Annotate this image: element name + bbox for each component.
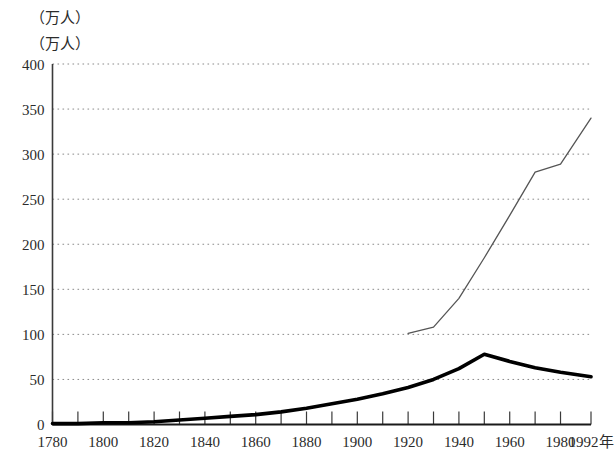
x-tick-label-1960: 1960 xyxy=(495,434,525,450)
x-tick-label-1820: 1820 xyxy=(139,434,169,450)
y-tick-label-300: 300 xyxy=(22,147,45,163)
chart-container: （万人） （万人） 050100150200250300350400 17801… xyxy=(0,0,616,469)
y-tick-label-200: 200 xyxy=(22,237,45,253)
x-tick-label-1900: 1900 xyxy=(342,434,372,450)
y-tick-label-400: 400 xyxy=(22,57,45,73)
y-tick-label-250: 250 xyxy=(22,192,45,208)
x-tick-label-1992年: 1992年 xyxy=(569,434,614,450)
y-tick-label-50: 50 xyxy=(30,372,45,388)
x-tick-label-1780: 1780 xyxy=(38,434,68,450)
x-tick-label-1880: 1880 xyxy=(292,434,322,450)
x-tick-label-1920: 1920 xyxy=(393,434,423,450)
data-series xyxy=(53,118,592,424)
line-chart-plot: 050100150200250300350400 178018001820184… xyxy=(0,0,616,469)
gridlines xyxy=(53,64,592,379)
y-tick-label-350: 350 xyxy=(22,102,45,118)
x-tick-label-1800: 1800 xyxy=(88,434,118,450)
x-tick-label-1840: 1840 xyxy=(190,434,220,450)
x-axis-tick-labels: 1780180018201840186018801900192019401960… xyxy=(38,434,614,450)
y-tick-label-0: 0 xyxy=(37,417,45,433)
series-thin-line xyxy=(408,118,591,333)
y-tick-label-100: 100 xyxy=(22,327,45,343)
y-tick-label-150: 150 xyxy=(22,282,45,298)
x-tick-label-1860: 1860 xyxy=(241,434,271,450)
x-tick-label-1940: 1940 xyxy=(444,434,474,450)
y-axis-tick-labels: 050100150200250300350400 xyxy=(22,57,45,434)
